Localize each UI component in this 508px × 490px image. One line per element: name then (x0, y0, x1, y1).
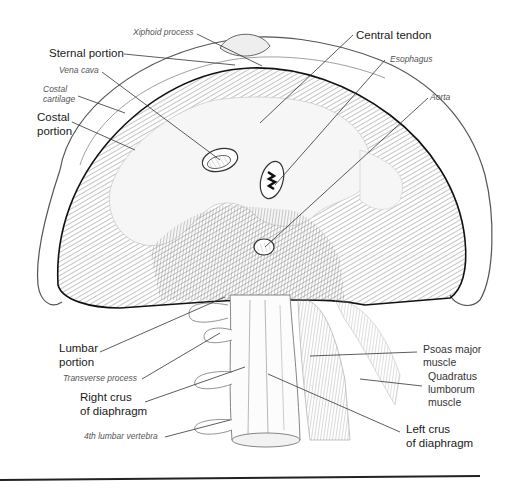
label-right-crus-line1: Right crus (80, 391, 132, 404)
label-transverse-process: Transverse process (63, 374, 137, 384)
label-xiphoid-process: Xiphoid process (133, 28, 193, 38)
label-quadratus-line1: Quadratus (428, 370, 477, 382)
label-quadratus-line2: lumborum (428, 383, 475, 395)
label-vena-cava: Vena cava (59, 66, 99, 76)
label-costal-portion-line1: Costal (37, 111, 70, 124)
label-costal-cartilage-line2: cartilage (43, 95, 75, 105)
label-psoas-major-line2: muscle (423, 356, 456, 368)
label-lumbar-portion-line2: portion (59, 356, 94, 369)
xiphoid-process-shape (220, 34, 270, 56)
label-4th-lumbar-vertebra: 4th lumbar vertebra (84, 432, 158, 442)
label-central-tendon: Central tendon (356, 29, 431, 42)
label-left-crus-line2: of diaphragm (406, 437, 473, 450)
label-right-crus-line2: of diaphragm (80, 405, 147, 418)
psoas-major-muscle (298, 300, 350, 440)
label-sternal-portion: Sternal portion (49, 47, 124, 60)
label-quadratus-line3: muscle (428, 396, 461, 408)
label-lumbar-portion-line1: Lumbar (59, 342, 98, 355)
label-esophagus: Esophagus (390, 55, 433, 65)
label-left-crus-line1: Left crus (406, 423, 450, 436)
diaphragm-diagram: Xiphoid process Sternal portion Vena cav… (0, 0, 508, 490)
label-costal-portion-line2: portion (37, 125, 72, 138)
label-aorta: Aorta (430, 93, 450, 103)
vertebral-column (189, 295, 300, 447)
label-psoas-major-line1: Psoas major (423, 343, 481, 355)
bottom-rule (0, 476, 480, 480)
